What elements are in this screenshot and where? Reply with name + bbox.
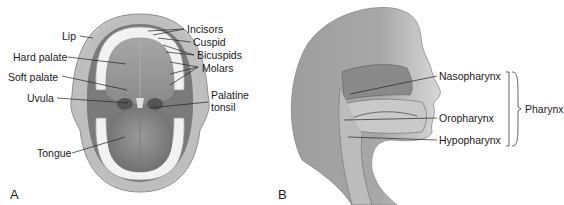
label-molars: Molars xyxy=(202,62,234,74)
label-tongue: Tongue xyxy=(37,147,71,159)
label-incisors: Incisors xyxy=(187,23,223,35)
label-lip: Lip xyxy=(62,30,76,42)
label-hypopharynx: Hypopharynx xyxy=(439,134,501,146)
label-nasopharynx: Nasopharynx xyxy=(439,70,501,82)
panel-letter-b: B xyxy=(278,187,287,202)
label-bicuspids: Bicuspids xyxy=(197,49,242,61)
label-cuspid: Cuspid xyxy=(193,36,226,48)
label-oropharynx: Oropharynx xyxy=(439,112,494,124)
label-palatine-tonsil-1: Palatine xyxy=(211,89,249,101)
label-pharynx: Pharynx xyxy=(525,103,564,115)
panel-letter-a: A xyxy=(10,187,19,202)
label-hard-palate: Hard palate xyxy=(13,51,67,63)
head-section-illustration xyxy=(282,0,564,205)
anatomy-figure: Lip Hard palate Soft palate Uvula Tongue… xyxy=(0,0,564,205)
label-palatine-tonsil-2: tonsil xyxy=(211,101,236,113)
label-soft-palate: Soft palate xyxy=(8,71,58,83)
label-uvula: Uvula xyxy=(27,92,54,104)
